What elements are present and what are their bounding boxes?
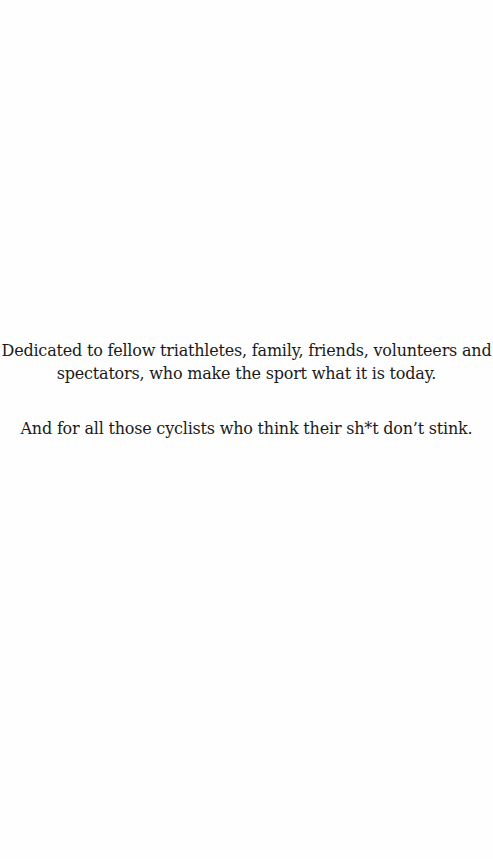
dedication-closing-line: And for all those cyclists who think the…	[0, 417, 493, 440]
book-page: Dedicated to fellow triathletes, family,…	[0, 0, 493, 859]
dedication-line: And for all those cyclists who think the…	[0, 417, 493, 440]
dedication-paragraph: Dedicated to fellow triathletes, family,…	[0, 339, 493, 385]
dedication-line: Dedicated to fellow triathletes, family,…	[0, 339, 493, 362]
dedication-line: spectators, who make the sport what it i…	[0, 362, 493, 385]
